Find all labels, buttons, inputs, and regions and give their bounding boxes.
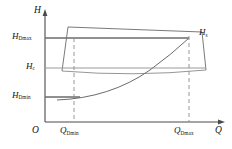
hdmin-base: H — [12, 90, 19, 100]
hs-sub: s — [206, 32, 208, 38]
qdmax-sub: Dmax — [181, 130, 194, 136]
arrow-right-icon — [218, 120, 225, 125]
y-axis-label: H — [34, 6, 41, 16]
qdmax-label: QDmax — [174, 126, 194, 135]
envelope-lower-boundary — [62, 70, 206, 74]
arrow-up-icon — [43, 9, 48, 16]
y-axis — [43, 9, 48, 122]
qdmin-base: Q — [60, 125, 67, 135]
qdmax-base: Q — [174, 125, 181, 135]
hdmax-label: HDmax — [12, 32, 32, 41]
operating-envelope-outline — [62, 27, 206, 71]
hs-curve-label: Hs — [199, 28, 208, 37]
hc-sub: c — [33, 65, 35, 71]
x-axis — [45, 120, 225, 125]
system-resistance-curve — [57, 38, 189, 100]
hc-label: Hc — [26, 62, 35, 71]
figure-container: H Q O HDmax Hc HDmin QDmin QDmax Hs — [0, 0, 232, 149]
qdmin-sub: Dmin — [67, 130, 79, 136]
hs-base: H — [199, 27, 206, 37]
origin-label: O — [32, 126, 39, 136]
x-axis-label: Q — [215, 126, 222, 136]
qdmin-label: QDmin — [60, 126, 79, 135]
hdmax-sub: Dmax — [19, 35, 32, 41]
hdmin-label: HDmin — [12, 91, 31, 100]
hdmin-sub: Dmin — [19, 94, 31, 100]
hc-base: H — [26, 61, 33, 71]
hdmax-base: H — [12, 31, 19, 41]
